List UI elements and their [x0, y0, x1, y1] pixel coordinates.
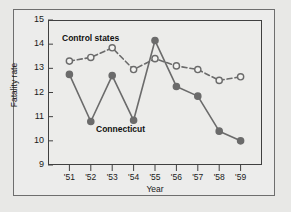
series-annotation-connecticut: Connecticut: [96, 124, 145, 134]
x-axis-tick-labels: '51'52'53'54'55'56'57'58'59: [0, 0, 291, 212]
x-axis-tick-label: '56: [164, 173, 188, 182]
x-axis-tick-label: '54: [122, 173, 146, 182]
x-axis-tick-label: '53: [100, 173, 124, 182]
x-axis-tick-label: '59: [229, 173, 253, 182]
x-axis-title: Year: [48, 184, 262, 194]
series-annotation-control-states: Control states: [62, 33, 119, 43]
chart-figure: 1514131211109 '51'52'53'54'55'56'57'58'5…: [0, 0, 291, 212]
x-axis-tick-label: '52: [79, 173, 103, 182]
y-axis-title: Fatality rate: [9, 55, 19, 115]
x-axis-tick-label: '58: [207, 173, 231, 182]
x-axis-tick-label: '55: [143, 173, 167, 182]
x-axis-tick-label: '57: [186, 173, 210, 182]
x-axis-tick-label: '51: [57, 173, 81, 182]
